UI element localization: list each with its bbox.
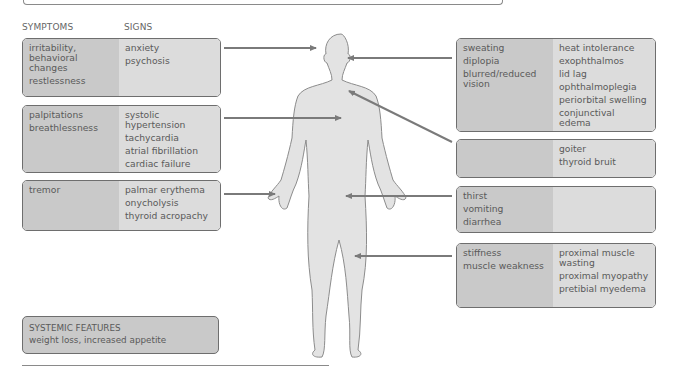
box-hands: tremor palmar erythema onycholysis thyro… bbox=[22, 180, 221, 231]
sign: ophthalmoplegia bbox=[559, 82, 649, 92]
symptom: thirst bbox=[463, 191, 547, 201]
sign: periorbital swelling bbox=[559, 95, 649, 105]
sign: conjunctival edema bbox=[559, 108, 649, 128]
sign: cardiac failure bbox=[125, 159, 214, 169]
sign: palmar erythema bbox=[125, 185, 214, 195]
symptom: stiffness bbox=[463, 248, 547, 258]
sign: goiter bbox=[559, 144, 649, 154]
sign: proximal muscle wasting bbox=[559, 248, 649, 268]
sign: systolic hypertension bbox=[125, 110, 214, 130]
sign: pretibial myedema bbox=[559, 284, 649, 294]
sign: lid lag bbox=[559, 69, 649, 79]
box-neuro: irritability, behavioral changes restles… bbox=[22, 38, 221, 97]
symptom: sweating bbox=[463, 43, 547, 53]
box-gi: thirst vomiting diarrhea bbox=[456, 186, 656, 233]
symptom: tremor bbox=[29, 185, 113, 195]
sign: psychosis bbox=[125, 56, 214, 66]
symptom: muscle weakness bbox=[463, 261, 547, 271]
systemic-text: weight loss, increased appetite bbox=[29, 334, 212, 346]
box-thyroid: goiter thyroid bruit bbox=[456, 139, 656, 178]
symptom: palpitations bbox=[29, 110, 113, 120]
sign: exophthalmos bbox=[559, 56, 649, 66]
symptom: vomiting bbox=[463, 204, 547, 214]
symptom: irritability, behavioral changes bbox=[29, 43, 113, 73]
sign: proximal myopathy bbox=[559, 271, 649, 281]
box-cardiac: palpitations breathlessness systolic hyp… bbox=[22, 105, 221, 173]
sign: anxiety bbox=[125, 43, 214, 53]
systemic-title: SYSTEMIC FEATURES bbox=[29, 322, 212, 334]
sign: atrial fibrillation bbox=[125, 146, 214, 156]
sign: heat intolerance bbox=[559, 43, 649, 53]
symptom: diarrhea bbox=[463, 217, 547, 227]
box-eyes: sweating diplopia blurred/reduced vision… bbox=[456, 38, 656, 132]
symptom: blurred/reduced vision bbox=[463, 69, 547, 89]
box-musculoskeletal: stiffness muscle weakness proximal muscl… bbox=[456, 243, 656, 308]
sign: thyroid acropachy bbox=[125, 211, 214, 221]
bottom-divider bbox=[22, 365, 329, 366]
sign: tachycardia bbox=[125, 133, 214, 143]
systemic-features-box: SYSTEMIC FEATURES weight loss, increased… bbox=[22, 316, 219, 354]
symptom: diplopia bbox=[463, 56, 547, 66]
sign: thyroid bruit bbox=[559, 157, 649, 167]
sign: onycholysis bbox=[125, 198, 214, 208]
symptom: restlessness bbox=[29, 76, 113, 86]
symptom: breathlessness bbox=[29, 123, 113, 133]
